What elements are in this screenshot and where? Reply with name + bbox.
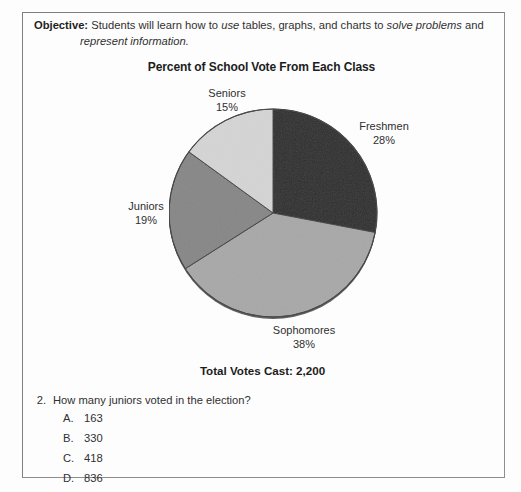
chart-title: Percent of School Vote From Each Class <box>0 60 521 74</box>
pie-label-freshmen: Freshmen 28% <box>347 120 421 147</box>
choice-d[interactable]: D. 836 <box>34 468 454 488</box>
worksheet-page: Objective: Students will learn how to us… <box>0 0 521 492</box>
question-number: 2. <box>34 393 46 408</box>
total-votes-cast: Total Votes Cast: 2,200 <box>0 364 521 377</box>
objective-italic-use: use <box>221 19 239 31</box>
pie-label-seniors: Seniors 15% <box>196 87 258 114</box>
objective-text-part2: tables, graphs, and charts to <box>239 19 386 31</box>
question-text: How many juniors voted in the election? <box>53 393 251 408</box>
choice-d-text: 836 <box>84 468 103 488</box>
choice-b-text: 330 <box>84 428 103 448</box>
choice-c[interactable]: C. 418 <box>34 448 454 468</box>
choice-c-text: 418 <box>84 448 103 468</box>
choice-c-letter: C. <box>63 448 75 468</box>
objective-label: Objective: <box>34 19 88 31</box>
objective-text-part1: Students will learn how to <box>91 19 221 31</box>
objective-line-two: represent information. <box>34 34 189 50</box>
question-line: 2. How many juniors voted in the electio… <box>34 393 454 408</box>
question-block: 2. How many juniors voted in the electio… <box>34 393 454 488</box>
objective-text-part3: and <box>462 19 484 31</box>
objective-text: Students will learn how to use tables, g… <box>88 19 484 31</box>
pie-slice-group <box>169 109 377 317</box>
pie-label-sophomores: Sophomores 38% <box>256 324 352 351</box>
objective-block: Objective: Students will learn how to us… <box>34 18 496 34</box>
choice-d-letter: D. <box>63 468 75 488</box>
objective-italic-solve-problems: solve problems <box>387 19 462 31</box>
choice-a-text: 163 <box>84 408 103 428</box>
choice-a[interactable]: A. 163 <box>34 408 454 428</box>
choice-b[interactable]: B. 330 <box>34 428 454 448</box>
choice-b-letter: B. <box>63 428 75 448</box>
choice-a-letter: A. <box>63 408 75 428</box>
pie-label-juniors: Juniors 19% <box>115 200 177 227</box>
